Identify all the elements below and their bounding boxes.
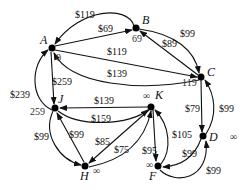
weight-j-h: $99 — [34, 131, 49, 142]
label-f: F — [148, 169, 157, 183]
dist-c: 119 — [182, 77, 197, 88]
dist-j: 259 — [30, 106, 45, 117]
edge-c-d — [201, 80, 202, 132]
edge-d-c — [205, 80, 214, 134]
label-h: H — [79, 169, 90, 183]
label-d: D — [208, 130, 218, 144]
node-d — [200, 133, 207, 140]
weight-a-c: $119 — [107, 46, 127, 57]
weight-c-a: $139 — [107, 68, 127, 79]
weight-b-a: $119 — [75, 9, 95, 20]
label-c: C — [207, 65, 216, 79]
node-k — [148, 104, 155, 111]
weight-h-k: $75 — [114, 144, 129, 155]
weight-h-j: $99 — [69, 129, 84, 140]
weight-b-c: $99 — [180, 28, 195, 39]
weight-d-c: $99 — [219, 103, 234, 114]
weight-a-b: $69 — [98, 23, 113, 34]
weight-j-k: $159 — [91, 113, 111, 124]
graph-diagram: $119 $69 $119 $139 $99 $89 $259 $239 $13… — [0, 0, 249, 190]
weight-f-k: $105 — [172, 129, 192, 140]
weight-c-b: $89 — [162, 38, 177, 49]
weight-c-d: $79 — [185, 103, 200, 114]
edge-j-a — [35, 50, 52, 110]
label-k: K — [154, 88, 164, 102]
weight-k-j: $139 — [94, 95, 114, 106]
edge-k-j — [60, 107, 148, 108]
weight-k-f: $95 — [142, 145, 157, 156]
label-b: B — [142, 13, 150, 27]
node-c — [198, 74, 205, 81]
node-b — [133, 25, 140, 32]
edge-f-d — [160, 141, 206, 178]
weight-a-j: $259 — [52, 76, 72, 87]
dist-k: ∞ — [143, 90, 150, 101]
dist-h: ∞ — [93, 165, 100, 176]
node-a — [49, 45, 56, 52]
dist-b: 69 — [132, 33, 142, 44]
dist-a: 0 — [56, 52, 61, 63]
label-a: A — [39, 33, 48, 47]
weight-k-h: $85 — [95, 136, 110, 147]
weight-j-a: $239 — [10, 89, 30, 100]
weight-d-f: $99 — [182, 148, 197, 159]
weight-f-d: $99 — [206, 165, 221, 176]
dist-f: ∞ — [146, 159, 153, 170]
edge-a-b — [55, 30, 132, 46]
label-j: J — [58, 92, 64, 106]
dist-d: ∞ — [230, 131, 237, 142]
